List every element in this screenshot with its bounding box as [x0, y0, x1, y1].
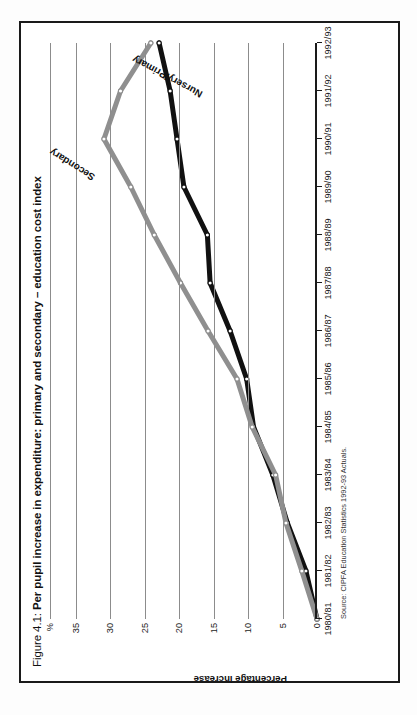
series-canvas	[55, 43, 317, 619]
page-canvas: Figure 4.1: Per pupil increase in expend…	[0, 0, 417, 715]
data-point-marker	[205, 233, 209, 237]
x-tick-label: 1984/85	[323, 410, 333, 443]
data-point-marker	[284, 521, 288, 525]
gridline	[76, 43, 77, 619]
data-point-marker	[300, 569, 304, 573]
y-axis-unit-label: %	[45, 623, 55, 661]
y-tick-label: 20	[174, 623, 184, 661]
x-tick-label: 1990/91	[323, 122, 333, 155]
data-point-marker	[168, 89, 172, 93]
plot-wrapper: Percentage increase 05101520253035% 1980…	[55, 23, 355, 681]
gridline	[283, 43, 284, 619]
y-tick-label: 15	[209, 623, 219, 661]
series-line	[159, 43, 317, 619]
x-tick-label: 1981/82	[323, 554, 333, 587]
gridline	[248, 43, 249, 619]
y-tick-label: 5	[278, 623, 288, 661]
data-point-marker	[129, 185, 133, 189]
gridline	[50, 43, 51, 619]
x-tick-label: 1987/88	[323, 266, 333, 299]
gridline	[179, 43, 180, 619]
y-tick-label: 0	[312, 623, 322, 661]
chart-card: Figure 4.1: Per pupil increase in expend…	[21, 23, 398, 681]
data-point-marker	[235, 377, 239, 381]
x-tick-label: 1980/81	[323, 602, 333, 635]
gridline	[214, 43, 215, 619]
data-point-marker	[228, 329, 232, 333]
data-point-marker	[206, 329, 210, 333]
plot-area	[55, 43, 317, 619]
x-tick-label: 1991/92	[323, 74, 333, 107]
x-tick-label: 1985/86	[323, 362, 333, 395]
y-tick-label: 35	[71, 623, 81, 661]
x-axis-line	[315, 43, 317, 619]
x-tick-label: 1989/90	[323, 170, 333, 203]
x-tick-label: 1992/93	[323, 26, 333, 59]
page-title: Figure 4.1: Per pupil increase in expend…	[31, 176, 43, 667]
data-point-marker	[102, 137, 106, 141]
data-point-marker	[274, 473, 278, 477]
data-point-marker	[157, 41, 161, 45]
data-point-marker	[182, 185, 186, 189]
x-tick-label: 1986/87	[323, 314, 333, 347]
figure-frame: Figure 4.1: Per pupil increase in expend…	[19, 21, 400, 683]
gridline	[145, 43, 146, 619]
figure-title-text: Per pupil increase in expenditure: prima…	[31, 176, 43, 610]
figure-number: Figure 4.1:	[31, 613, 43, 667]
data-point-marker	[152, 233, 156, 237]
rotated-figure-stage: Figure 4.1: Per pupil increase in expend…	[21, 23, 398, 681]
y-axis-tick-labels: 05101520253035%	[55, 623, 317, 667]
x-tick-label: 1988/89	[323, 218, 333, 251]
data-point-marker	[149, 41, 153, 45]
data-point-marker	[118, 89, 122, 93]
data-point-marker	[208, 281, 212, 285]
y-tick-label: 10	[243, 623, 253, 661]
x-tick-label: 1982/83	[323, 506, 333, 539]
y-tick-label: 25	[140, 623, 150, 661]
gridline	[110, 43, 111, 619]
y-axis-title: Percentage increase	[127, 674, 287, 685]
y-tick-label: 30	[105, 623, 115, 661]
source-note: Source: CIPFA Education Statistics 1992-…	[339, 447, 348, 619]
x-tick-label: 1983/84	[323, 458, 333, 491]
data-point-marker	[250, 425, 254, 429]
